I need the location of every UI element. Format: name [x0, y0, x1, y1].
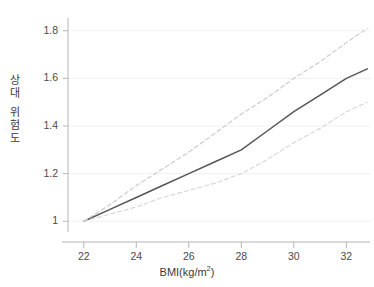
plot-canvas [0, 0, 374, 287]
y-axis-title-char-1: 상 [10, 74, 20, 87]
y-tick-label-1-6: 1.6 [28, 72, 58, 83]
relative-risk-bmi-chart: 상 대 위 험 도 1.8 1.6 1.4 1.2 1 22 24 26 28 … [0, 0, 374, 287]
y-axis-title-char-4: 험 [10, 119, 20, 132]
y-tick-label-1-8: 1.8 [28, 25, 58, 36]
x-tick-label-22: 22 [69, 251, 99, 262]
y-axis-title-char-2: 대 [10, 87, 20, 100]
x-axis-title-close: ) [211, 266, 215, 278]
x-tick-label-28: 28 [226, 251, 256, 262]
y-tick-label-1: 1 [28, 215, 58, 226]
x-tick-label-24: 24 [121, 251, 151, 262]
data-series-group [84, 28, 368, 221]
y-axis-title-char-5: 도 [10, 132, 20, 145]
x-tick-label-32: 32 [331, 251, 361, 262]
x-tick-label-26: 26 [174, 251, 204, 262]
x-axis-title: BMI(kg/m2) [0, 264, 374, 278]
y-axis-title-char-3: 위 [10, 106, 20, 119]
y-tick-label-1-4: 1.4 [28, 120, 58, 131]
series-line-2 [84, 102, 368, 221]
x-tick-label-30: 30 [279, 251, 309, 262]
y-tick-label-1-2: 1.2 [28, 168, 58, 179]
series-line-0 [84, 69, 368, 221]
axis-lines-group [62, 18, 370, 242]
x-axis-title-base: BMI(kg/m [160, 266, 207, 278]
y-axis-title: 상 대 위 험 도 [4, 74, 26, 145]
